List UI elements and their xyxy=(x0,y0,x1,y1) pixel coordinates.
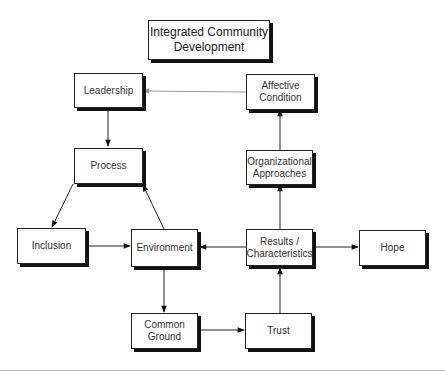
node-environment: Environment xyxy=(131,229,198,267)
node-trust: Trust xyxy=(245,313,312,349)
node-organizational-approaches: Organizational Approaches xyxy=(246,150,313,185)
arrow-process-to-inclusion xyxy=(52,184,73,227)
arrow-affective-to-leadership xyxy=(143,91,246,92)
node-inclusion: Inclusion xyxy=(17,228,86,264)
bottom-divider xyxy=(0,370,445,371)
node-leadership: Leadership xyxy=(74,73,143,108)
node-hope: Hope xyxy=(359,230,426,266)
arrow-environment-to-process xyxy=(143,185,164,229)
node-affective-condition: Affective Condition xyxy=(246,74,315,110)
node-integrated-community-development: Integrated Community Development xyxy=(148,20,270,60)
node-common-ground: Common Ground xyxy=(131,313,198,349)
node-process: Process xyxy=(74,148,143,184)
node-results-characteristics: Results / Characteristics xyxy=(246,229,313,266)
